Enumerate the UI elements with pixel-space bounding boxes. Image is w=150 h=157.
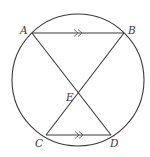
geometry-diagram: A B C D E (0, 0, 150, 157)
point-label-a: A (19, 24, 28, 36)
point-label-d: D (109, 137, 119, 149)
point-label-c: C (35, 137, 43, 149)
diagonal-ad (32, 33, 111, 135)
point-label-e: E (65, 91, 74, 103)
circle (12, 14, 144, 146)
point-label-b: B (127, 24, 136, 36)
diagonal-bc (46, 33, 124, 135)
